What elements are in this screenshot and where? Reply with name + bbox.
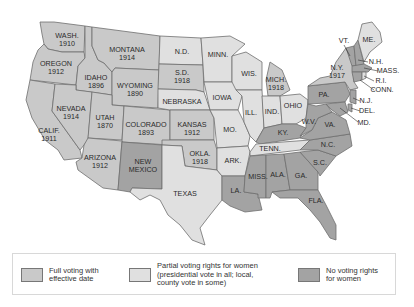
svg-text:N.Y.1917: N.Y.1917 bbox=[329, 63, 345, 80]
svg-text:IOWA: IOWA bbox=[213, 93, 232, 102]
svg-text:W.V.: W.V. bbox=[302, 117, 317, 126]
svg-text:MASS.: MASS. bbox=[377, 66, 399, 75]
svg-text:IND.: IND. bbox=[265, 107, 279, 116]
svg-text:VA.: VA. bbox=[324, 120, 335, 129]
svg-text:WIS.: WIS. bbox=[241, 69, 257, 78]
state-new-jersey bbox=[350, 90, 356, 104]
svg-text:N.C.: N.C. bbox=[321, 140, 335, 149]
svg-text:N.J.: N.J. bbox=[360, 96, 373, 105]
legend-swatch-full bbox=[21, 268, 43, 282]
svg-text:MD.: MD. bbox=[357, 118, 370, 127]
legend-item-full: Full voting with effective date bbox=[21, 254, 99, 296]
map-legend: Full voting with effective date Partial … bbox=[12, 253, 396, 295]
svg-text:MICH.1918: MICH.1918 bbox=[266, 75, 286, 92]
svg-text:TENN.: TENN. bbox=[259, 144, 281, 153]
svg-text:S.C.: S.C. bbox=[313, 158, 327, 167]
svg-text:KY.: KY. bbox=[278, 128, 289, 137]
svg-text:ME.: ME. bbox=[363, 35, 376, 44]
svg-text:S.D.1918: S.D.1918 bbox=[174, 68, 190, 85]
svg-text:CALIF.1911: CALIF.1911 bbox=[38, 126, 60, 143]
svg-text:NEBRASKA: NEBRASKA bbox=[162, 97, 201, 106]
svg-text:N.D.: N.D. bbox=[175, 47, 189, 56]
svg-text:MISS.: MISS. bbox=[248, 172, 268, 181]
svg-text:DEL.: DEL. bbox=[359, 106, 375, 115]
legend-item-partial: Partial voting rights for women (preside… bbox=[129, 254, 258, 296]
svg-text:TEXAS: TEXAS bbox=[173, 189, 197, 198]
svg-text:ARK.: ARK. bbox=[225, 156, 242, 165]
us-suffrage-map: WASH.1910 OREGON1912 CALIF.1911 IDAHO189… bbox=[0, 0, 414, 250]
svg-text:N.H.: N.H. bbox=[369, 57, 383, 66]
legend-label-partial: Partial voting rights for women (preside… bbox=[157, 262, 258, 288]
svg-text:OKLA.1918: OKLA.1918 bbox=[189, 149, 210, 166]
svg-text:GA.: GA. bbox=[295, 171, 307, 180]
svg-text:OHIO: OHIO bbox=[284, 101, 303, 110]
svg-text:MO.: MO. bbox=[223, 125, 237, 134]
legend-swatch-none bbox=[298, 268, 320, 282]
legend-label-none: No voting rights for women bbox=[326, 267, 378, 284]
svg-text:UTAH1870: UTAH1870 bbox=[95, 113, 114, 130]
svg-text:FLA.: FLA. bbox=[308, 196, 323, 205]
svg-text:R.I.: R.I. bbox=[375, 76, 386, 85]
svg-text:MINN.: MINN. bbox=[208, 50, 228, 59]
legend-label-full: Full voting with effective date bbox=[49, 267, 99, 284]
svg-text:LA.: LA. bbox=[231, 186, 242, 195]
svg-text:VT.: VT. bbox=[339, 36, 349, 45]
svg-text:ALA.: ALA. bbox=[270, 170, 286, 179]
legend-item-none: No voting rights for women bbox=[298, 254, 378, 296]
svg-text:CONN.: CONN. bbox=[370, 85, 393, 94]
svg-text:PA.: PA. bbox=[318, 90, 329, 99]
legend-swatch-partial bbox=[129, 268, 151, 282]
svg-text:ILL.: ILL. bbox=[245, 108, 257, 117]
state-florida bbox=[272, 190, 336, 240]
